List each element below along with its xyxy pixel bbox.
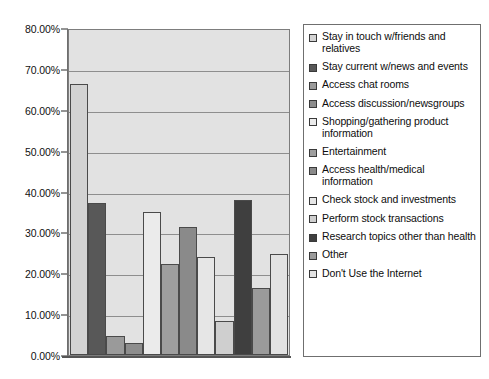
legend: Stay in touch w/friends and relativesSta… (303, 24, 481, 357)
bar (88, 203, 106, 355)
legend-swatch-icon (309, 100, 317, 108)
y-axis: 80.00%70.00%60.00%50.00%40.00%30.00%20.0… (0, 0, 68, 379)
legend-item-label: Access chat rooms (322, 79, 409, 91)
bar (106, 336, 124, 355)
legend-swatch-icon (309, 270, 317, 278)
bar (143, 212, 161, 355)
bar (125, 343, 143, 355)
bar (215, 321, 233, 355)
y-axis-tick-label: 80.00% (25, 23, 60, 35)
legend-item-label: Stay current w/news and events (322, 61, 468, 73)
y-axis-tick-label: 10.00% (25, 309, 60, 321)
legend-item: Access health/medical information (309, 164, 476, 188)
legend-item-label: Entertainment (322, 146, 386, 158)
y-axis-tick-label: 60.00% (25, 105, 60, 117)
legend-swatch-icon (309, 234, 317, 242)
plot-area (68, 29, 290, 356)
legend-item: Perform stock transactions (309, 213, 476, 225)
bar (70, 84, 88, 355)
legend-item: Check stock and investments (309, 194, 476, 206)
y-axis-tick-label: 20.00% (25, 268, 60, 280)
y-axis-tick-label: 50.00% (25, 146, 60, 158)
legend-swatch-icon (309, 197, 317, 205)
y-axis-tick-label: 40.00% (25, 187, 60, 199)
legend-item: Don't Use the Internet (309, 268, 476, 280)
legend-item-label: Research topics other than health (322, 231, 476, 243)
legend-item: Other (309, 249, 476, 261)
legend-item-label: Check stock and investments (322, 194, 456, 206)
legend-item: Entertainment (309, 146, 476, 158)
chart-figure: 80.00%70.00%60.00%50.00%40.00%30.00%20.0… (0, 0, 489, 379)
bar-series (69, 30, 289, 355)
legend-swatch-icon (309, 64, 317, 72)
x-axis-line (62, 356, 291, 358)
legend-swatch-icon (309, 34, 317, 42)
y-axis-tick-label: 70.00% (25, 64, 60, 76)
legend-item-label: Shopping/gathering product information (322, 116, 476, 140)
legend-item-label: Other (322, 249, 348, 261)
legend-swatch-icon (309, 149, 317, 157)
legend-swatch-icon (309, 118, 317, 126)
bar (179, 227, 197, 355)
legend-item: Research topics other than health (309, 231, 476, 243)
plot-wrapper (68, 29, 290, 356)
bar (234, 200, 252, 355)
legend-item: Access discussion/newsgroups (309, 98, 476, 110)
bar (197, 257, 215, 355)
legend-item-label: Stay in touch w/friends and relatives (322, 31, 476, 55)
legend-swatch-icon (309, 82, 317, 90)
legend-item: Stay current w/news and events (309, 61, 476, 73)
legend-swatch-icon (309, 215, 317, 223)
legend-item: Shopping/gathering product information (309, 116, 476, 140)
legend-item: Stay in touch w/friends and relatives (309, 31, 476, 55)
bar (161, 264, 179, 355)
legend-item-label: Access health/medical information (322, 164, 476, 188)
y-axis-tick-label: 30.00% (25, 227, 60, 239)
y-axis-tick-label: 0.00% (31, 350, 60, 362)
bar (252, 288, 270, 355)
bar (270, 254, 288, 355)
legend-swatch-icon (309, 252, 317, 260)
legend-swatch-icon (309, 167, 317, 175)
legend-item-label: Access discussion/newsgroups (322, 98, 465, 110)
legend-item: Access chat rooms (309, 79, 476, 91)
legend-item-label: Perform stock transactions (322, 213, 444, 225)
legend-item-label: Don't Use the Internet (322, 268, 422, 280)
